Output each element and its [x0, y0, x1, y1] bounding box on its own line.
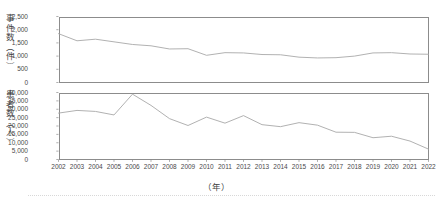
- xtick-label: 2005: [107, 164, 121, 171]
- xtick-label: 2015: [292, 164, 306, 171]
- xtick-label: 2021: [403, 164, 417, 171]
- xtick-label: 2014: [273, 164, 287, 171]
- xtick-label: 2004: [88, 164, 102, 171]
- chart-patients-line: [59, 94, 429, 149]
- xtick-label: 2022: [421, 164, 435, 171]
- xtick-label: 2008: [162, 164, 176, 171]
- xtick-label: 2009: [181, 164, 195, 171]
- xtick-label: 2012: [236, 164, 250, 171]
- xtick-label: 2011: [218, 164, 232, 171]
- xtick-label: 2019: [366, 164, 380, 171]
- figure-container: 事件数（件） 患者数（人） 05001,0001,5002,0002,500 0…: [0, 0, 443, 203]
- xtick-label: 2013: [255, 164, 269, 171]
- xtick-label: 2006: [125, 164, 139, 171]
- page-rule: [28, 195, 435, 196]
- xtick-label: 2002: [51, 164, 65, 171]
- chart-line-layer: [0, 0, 443, 203]
- xtick-label: 2016: [310, 164, 324, 171]
- xtick-label: 2010: [199, 164, 213, 171]
- xtick-label: 2020: [384, 164, 398, 171]
- xtick-label: 2003: [70, 164, 84, 171]
- chart-xaxis-label: （年）: [203, 180, 230, 192]
- chart-events-line: [59, 34, 429, 58]
- xtick-label: 2017: [329, 164, 343, 171]
- xtick-label: 2018: [347, 164, 361, 171]
- chart-tick-marks: [56, 17, 428, 162]
- xtick-label: 2007: [144, 164, 158, 171]
